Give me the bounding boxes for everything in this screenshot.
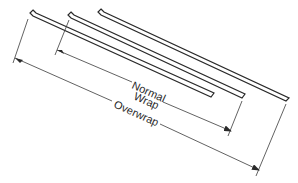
wrap-diagram: Normal Wrap Overwrap <box>0 0 298 183</box>
overwrap-extension-right <box>256 104 286 176</box>
overwrap-dimension-line-right <box>160 124 259 170</box>
arrowhead-icon <box>57 50 64 54</box>
normal-dimension-line-right <box>163 102 231 131</box>
arrowhead-icon <box>15 58 23 63</box>
overwrap-dimension-line-left <box>15 58 112 101</box>
strip-2 <box>68 12 245 98</box>
overwrap-extension-left <box>13 19 28 63</box>
